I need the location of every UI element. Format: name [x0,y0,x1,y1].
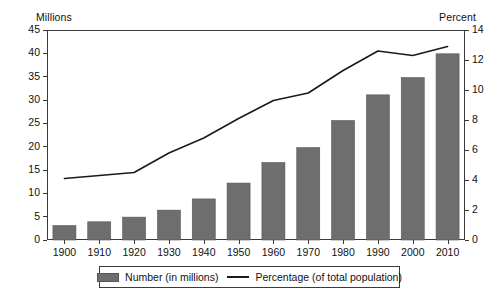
x-tick-mark-1940 [204,240,205,244]
right-tick-label-12: 12 [472,53,484,65]
left-tick-label-10: 10 [28,186,40,198]
left-tick-mark-35 [43,76,47,77]
legend-bar-swatch-icon [97,273,119,282]
left-tick-mark-30 [43,100,47,101]
left-tick-mark-10 [43,193,47,194]
bar-1900 [53,226,76,240]
x-tick-mark-1910 [99,240,100,244]
left-tick-mark-5 [43,216,47,217]
legend-line-label: Percentage (of total population) [255,271,402,283]
right-tick-label-4: 4 [472,173,478,185]
right-tick-mark-10 [465,90,469,91]
legend-line-swatch-icon [227,276,249,278]
bar-1920 [123,217,146,240]
right-tick-mark-4 [465,180,469,181]
right-tick-label-10: 10 [472,83,484,95]
x-tick-mark-1900 [64,240,65,244]
bar-1910 [88,222,111,240]
left-tick-label-20: 20 [28,140,40,152]
bar-1940 [192,199,215,240]
right-tick-mark-8 [465,120,469,121]
x-tick-mark-1990 [378,240,379,244]
left-tick-mark-15 [43,170,47,171]
left-axis-unit-caption: Millions [36,11,72,23]
bar-1970 [297,148,320,240]
left-tick-mark-20 [43,146,47,147]
x-tick-mark-1960 [273,240,274,244]
left-tick-label-30: 30 [28,93,40,105]
left-tick-label-35: 35 [28,70,40,82]
x-tick-mark-1920 [134,240,135,244]
right-tick-mark-0 [465,240,469,241]
right-tick-label-8: 8 [472,113,478,125]
right-tick-label-0: 0 [472,233,478,245]
right-tick-mark-6 [465,150,469,151]
legend-entry-bar: Number (in millions) [97,271,218,283]
right-tick-mark-12 [465,60,469,61]
x-tick-mark-1970 [308,240,309,244]
left-tick-label-40: 40 [28,46,40,58]
percentage-line-series [64,47,447,179]
left-tick-label-25: 25 [28,116,40,128]
right-tick-mark-2 [465,210,469,211]
bar-2010 [436,54,459,240]
bar-1930 [157,210,180,240]
bar-1950 [227,183,250,240]
x-tick-label-2010: 2010 [428,246,468,258]
left-tick-label-0: 0 [34,233,40,245]
plot-graphics [47,30,465,240]
left-tick-mark-40 [43,53,47,54]
legend-entry-line: Percentage (of total population) [227,271,402,283]
x-tick-mark-1950 [239,240,240,244]
left-tick-mark-25 [43,123,47,124]
bar-2000 [401,78,424,240]
left-tick-label-15: 15 [28,163,40,175]
right-tick-label-14: 14 [472,23,484,35]
x-tick-mark-2010 [448,240,449,244]
left-tick-mark-0 [43,240,47,241]
bar-series [53,54,459,240]
right-axis-unit-caption: Percent [439,11,476,23]
bar-1960 [262,163,285,240]
x-tick-mark-1980 [343,240,344,244]
x-tick-mark-1930 [169,240,170,244]
foreign-born-population-chart: Millions Percent 05101520253035404502468… [0,0,498,299]
left-tick-label-5: 5 [34,210,40,222]
right-tick-label-2: 2 [472,203,478,215]
chart-legend: Number (in millions) Percentage (of tota… [99,266,400,288]
right-tick-label-6: 6 [472,143,478,155]
bar-1980 [332,121,355,240]
left-tick-mark-45 [43,30,47,31]
left-tick-label-45: 45 [28,23,40,35]
x-tick-mark-2000 [413,240,414,244]
bar-1990 [366,95,389,240]
right-tick-mark-14 [465,30,469,31]
legend-bar-label: Number (in millions) [125,271,218,283]
